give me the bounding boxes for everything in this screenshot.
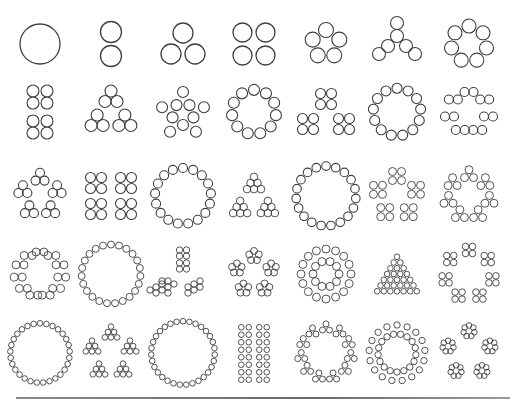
circle xyxy=(86,250,93,257)
circle xyxy=(211,358,217,364)
circle xyxy=(398,130,408,140)
circle xyxy=(334,114,344,124)
circle xyxy=(97,184,107,194)
circle xyxy=(165,278,171,284)
circle xyxy=(48,189,57,198)
circle xyxy=(207,333,213,339)
circle xyxy=(97,173,107,183)
circle xyxy=(184,219,193,228)
circle xyxy=(407,277,413,283)
circle xyxy=(371,367,377,373)
circle xyxy=(408,190,416,198)
circle xyxy=(446,273,453,280)
circle xyxy=(346,336,352,342)
circle xyxy=(454,53,468,67)
circle xyxy=(390,331,396,337)
circle xyxy=(190,381,196,387)
circle xyxy=(256,347,262,353)
circle xyxy=(480,296,487,303)
circle xyxy=(377,358,383,364)
circle xyxy=(409,338,415,344)
circle xyxy=(443,259,450,266)
arrangement-12 xyxy=(298,89,355,135)
circle xyxy=(327,221,336,230)
circle xyxy=(34,380,40,386)
circle xyxy=(394,288,400,294)
circle xyxy=(83,287,90,294)
circle xyxy=(298,350,304,356)
circle xyxy=(404,324,410,330)
circle xyxy=(256,332,262,338)
circle xyxy=(312,247,320,255)
circle xyxy=(391,260,397,266)
circle xyxy=(60,331,66,337)
circle xyxy=(452,296,459,303)
circle xyxy=(171,281,177,287)
circle xyxy=(445,41,459,55)
circle xyxy=(31,321,37,327)
circle xyxy=(183,260,189,266)
circle xyxy=(129,250,136,257)
circle xyxy=(386,130,396,140)
circle xyxy=(322,295,330,303)
circle xyxy=(209,364,215,370)
circle xyxy=(269,97,280,108)
circle xyxy=(351,356,357,362)
circle xyxy=(400,204,408,212)
circle xyxy=(127,173,137,183)
circle xyxy=(382,40,395,53)
circle xyxy=(101,22,122,43)
circle xyxy=(453,95,462,104)
circle xyxy=(301,368,307,374)
arrangement-13 xyxy=(368,83,425,140)
circle xyxy=(299,260,307,268)
arrangement-29 xyxy=(8,320,73,385)
circle xyxy=(256,369,262,375)
circle xyxy=(20,251,28,259)
circle xyxy=(302,356,308,362)
arrangement-33 xyxy=(295,321,358,382)
circle xyxy=(168,165,177,174)
arrangement-34 xyxy=(366,322,428,384)
circle xyxy=(197,171,206,180)
circle xyxy=(312,293,320,301)
arrangement-26 xyxy=(297,245,355,303)
circle xyxy=(476,95,485,104)
circle xyxy=(197,284,203,290)
circle xyxy=(481,259,488,266)
circle xyxy=(86,184,96,194)
circle xyxy=(349,204,358,213)
arrangement-10 xyxy=(157,87,210,138)
circle xyxy=(404,334,410,340)
circle xyxy=(242,128,253,139)
circle xyxy=(111,95,123,107)
circle xyxy=(189,165,198,174)
circle xyxy=(451,214,459,222)
circle xyxy=(173,23,193,43)
circle xyxy=(62,273,70,281)
arrangement-31 xyxy=(148,318,217,387)
circle xyxy=(453,182,461,190)
circle xyxy=(120,361,126,367)
circle xyxy=(12,261,20,269)
circle xyxy=(173,219,182,228)
circle xyxy=(238,369,244,375)
circle xyxy=(236,209,244,217)
circle xyxy=(297,342,303,348)
circle xyxy=(379,374,385,380)
circle xyxy=(264,377,270,383)
circle xyxy=(150,339,156,345)
circle xyxy=(268,260,275,267)
circle xyxy=(378,190,386,198)
circle xyxy=(384,283,390,289)
circle xyxy=(41,115,53,127)
circle xyxy=(165,126,176,137)
circle xyxy=(40,380,46,386)
arrangement-8 xyxy=(27,85,53,139)
circle xyxy=(198,102,209,113)
circle xyxy=(394,277,400,283)
circle xyxy=(40,176,49,185)
circle xyxy=(8,355,14,361)
circle xyxy=(168,321,174,327)
circle xyxy=(237,88,248,99)
